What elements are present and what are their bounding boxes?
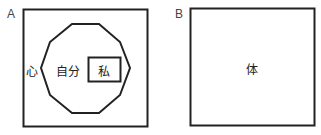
panel-b-shapes: [0, 0, 321, 135]
center-label-karada: 体: [246, 60, 258, 77]
